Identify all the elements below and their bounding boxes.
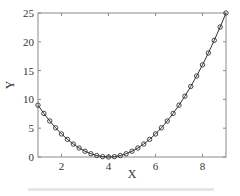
axes: 24680510152025 xyxy=(23,7,226,172)
y-tick-label: 5 xyxy=(29,122,35,134)
y-tick-label: 10 xyxy=(23,93,35,105)
x-tick-label: 4 xyxy=(106,160,112,172)
series-line xyxy=(38,13,226,157)
y-tick-label: 15 xyxy=(23,65,35,77)
data-series xyxy=(36,11,228,159)
x-axis-label: X xyxy=(128,167,137,181)
y-tick-label: 25 xyxy=(23,7,35,19)
figure-caption-illegible xyxy=(28,188,214,191)
x-tick-label: 8 xyxy=(200,160,206,172)
x-tick-label: 2 xyxy=(59,160,65,172)
y-tick-label: 20 xyxy=(23,36,35,48)
y-tick-label: 0 xyxy=(29,151,35,163)
chart-area: 24680510152025 X Y xyxy=(0,0,240,196)
y-axis-label: Y xyxy=(3,80,17,89)
x-tick-label: 6 xyxy=(153,160,159,172)
plot-frame xyxy=(38,13,226,157)
